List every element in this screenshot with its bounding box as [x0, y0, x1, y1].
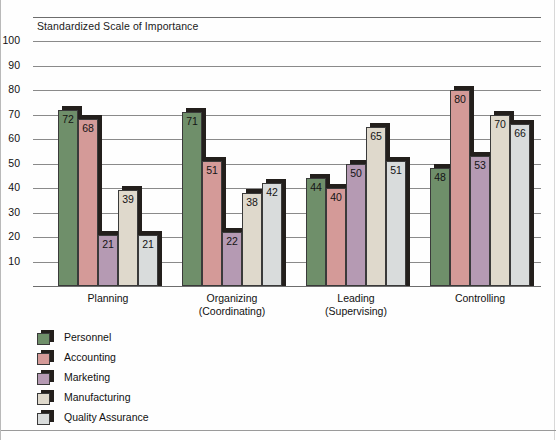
gridline-100 — [33, 41, 541, 42]
legend-swatch-box — [37, 390, 55, 405]
y-tick-label-80: 80 — [0, 83, 20, 95]
bar-value-label: 39 — [118, 193, 138, 205]
bar-value-label: 72 — [58, 113, 78, 125]
legend-label: Personnel — [64, 331, 111, 343]
bar-value-label: 71 — [182, 115, 202, 127]
legend-label: Manufacturing — [64, 391, 131, 403]
x-label-line: Organizing — [172, 292, 292, 305]
y-tick-label-50: 50 — [0, 157, 20, 169]
bar-value-label: 70 — [490, 118, 510, 130]
bar-value-label: 21 — [138, 238, 158, 250]
bar-accounting-0[interactable] — [78, 119, 98, 286]
bar-personnel-2[interactable] — [306, 178, 326, 286]
legend-swatch — [37, 413, 50, 425]
gridline-90 — [33, 66, 541, 67]
legend-label: Marketing — [64, 371, 110, 383]
legend-item-manufacturing[interactable]: Manufacturing — [37, 387, 149, 407]
bar-quality-assurance-1[interactable] — [262, 183, 282, 286]
bar-manufacturing-2[interactable] — [366, 127, 386, 286]
x-axis-label-1: Organizing(Coordinating) — [172, 292, 292, 318]
legend-swatch-box — [37, 330, 55, 345]
legend-item-personnel[interactable]: Personnel — [37, 327, 149, 347]
y-tick-label-30: 30 — [0, 206, 20, 218]
legend-swatch-box — [37, 370, 55, 385]
y-tick-label-40: 40 — [0, 181, 20, 193]
bar-value-label: 21 — [98, 238, 118, 250]
bar-value-label: 38 — [242, 196, 262, 208]
bar-quality-assurance-3[interactable] — [510, 124, 530, 286]
x-axis-label-0: Planning — [48, 292, 168, 305]
legend-swatch-box — [37, 350, 55, 365]
bar-accounting-1[interactable] — [202, 161, 222, 286]
bar-manufacturing-3[interactable] — [490, 115, 510, 287]
bar-personnel-3[interactable] — [430, 168, 450, 286]
legend-swatch-box — [37, 410, 55, 425]
x-axis-label-2: Leading(Supervising) — [296, 292, 416, 318]
bar-value-label: 22 — [222, 235, 242, 247]
bar-value-label: 42 — [262, 186, 282, 198]
x-label-line: (Coordinating) — [172, 305, 292, 318]
y-tick-label-90: 90 — [0, 59, 20, 71]
bar-value-label: 51 — [202, 164, 222, 176]
title-top-rule — [33, 17, 541, 18]
legend-label: Quality Assurance — [64, 411, 149, 423]
x-label-line: (Supervising) — [296, 305, 416, 318]
y-tick-label-60: 60 — [0, 132, 20, 144]
y-tick-label-100: 100 — [0, 34, 20, 46]
y-tick-label-10: 10 — [0, 255, 20, 267]
bar-marketing-3[interactable] — [470, 156, 490, 286]
bar-personnel-0[interactable] — [58, 110, 78, 286]
bar-value-label: 65 — [366, 130, 386, 142]
bar-personnel-1[interactable] — [182, 112, 202, 286]
chart-title: Standardized Scale of Importance — [37, 20, 198, 32]
bar-quality-assurance-2[interactable] — [386, 161, 406, 286]
plot-area: 100908070605040302010 727144486851408021… — [33, 41, 541, 286]
bar-value-label: 40 — [326, 191, 346, 203]
legend-item-accounting[interactable]: Accounting — [37, 347, 149, 367]
chart-legend: PersonnelAccountingMarketingManufacturin… — [37, 327, 149, 427]
bar-value-label: 48 — [430, 171, 450, 183]
bar-value-label: 66 — [510, 127, 530, 139]
legend-swatch — [37, 373, 50, 385]
x-axis-line — [33, 286, 541, 287]
legend-item-marketing[interactable]: Marketing — [37, 367, 149, 387]
legend-swatch — [37, 353, 50, 365]
x-axis-label-3: Controlling — [420, 292, 540, 305]
x-label-line: Planning — [48, 292, 168, 305]
bar-marketing-2[interactable] — [346, 164, 366, 287]
bar-accounting-3[interactable] — [450, 90, 470, 286]
bar-value-label: 53 — [470, 159, 490, 171]
legend-item-quality-assurance[interactable]: Quality Assurance — [37, 407, 149, 427]
bar-value-label: 80 — [450, 93, 470, 105]
y-tick-label-70: 70 — [0, 108, 20, 120]
bar-value-label: 44 — [306, 181, 326, 193]
bar-value-label: 50 — [346, 167, 366, 179]
legend-swatch — [37, 333, 50, 345]
bar-value-label: 51 — [386, 164, 406, 176]
bottom-rule — [1, 430, 556, 431]
x-label-line: Leading — [296, 292, 416, 305]
legend-label: Accounting — [64, 351, 116, 363]
bar-value-label: 68 — [78, 122, 98, 134]
y-tick-label-20: 20 — [0, 230, 20, 242]
legend-swatch — [37, 393, 50, 405]
x-label-line: Controlling — [420, 292, 540, 305]
